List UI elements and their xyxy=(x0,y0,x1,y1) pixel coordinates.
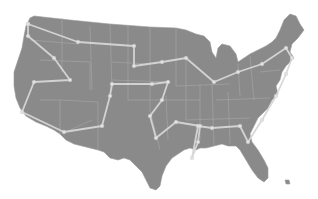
route-stop-marker xyxy=(132,64,136,68)
route-stop-marker xyxy=(274,94,278,98)
route-stop-marker xyxy=(132,44,136,48)
route-stop-marker xyxy=(150,82,154,86)
route-stop-marker xyxy=(154,136,158,140)
route-stop-marker xyxy=(110,82,114,86)
route-stop-marker xyxy=(284,72,288,76)
route-stop-marker xyxy=(108,94,112,98)
route-stop-marker xyxy=(76,40,80,44)
route-stop-marker xyxy=(212,80,216,84)
route-stop-marker xyxy=(190,156,194,160)
route-stop-marker xyxy=(160,98,164,102)
route-stop-marker xyxy=(210,126,214,130)
route-stop-marker xyxy=(238,124,242,128)
route-stop-marker xyxy=(32,80,36,84)
route-stop-marker xyxy=(290,56,294,60)
us-landmass xyxy=(14,14,304,190)
route-stop-marker xyxy=(68,78,72,82)
route-stop-marker xyxy=(236,70,240,74)
route-stop-marker xyxy=(148,114,152,118)
us-map xyxy=(0,0,318,199)
route-stop-marker xyxy=(20,110,24,114)
route-stop-marker xyxy=(246,140,250,144)
route-stop-marker xyxy=(52,56,56,60)
route-stop-marker xyxy=(198,124,202,128)
map-canvas xyxy=(0,0,318,199)
route-stop-marker xyxy=(100,124,104,128)
route-stop-marker xyxy=(160,60,164,64)
route-stop-marker xyxy=(284,46,288,50)
route-stop-marker xyxy=(26,34,30,38)
route-stop-marker xyxy=(196,140,200,144)
route-stop-marker xyxy=(166,80,170,84)
route-stop-marker xyxy=(26,22,30,26)
route-stop-marker xyxy=(62,130,66,134)
route-stop-marker xyxy=(260,118,264,122)
route-stop-marker xyxy=(260,62,264,66)
keys-fragment xyxy=(285,180,290,184)
route-stop-marker xyxy=(184,56,188,60)
route-stop-marker xyxy=(174,120,178,124)
